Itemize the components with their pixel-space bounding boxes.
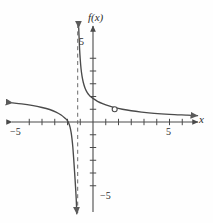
curve-right-branch xyxy=(79,28,198,116)
graph-figure: f(x) x 5 −5 5 −5 xyxy=(0,0,213,223)
x-tick-label-5: 5 xyxy=(166,126,171,137)
x-tick-label-negative-5: −5 xyxy=(10,126,21,137)
curve-left-branch xyxy=(13,103,77,214)
y-axis-label: f(x) xyxy=(88,11,103,23)
x-axis-label: x xyxy=(199,113,204,125)
axes-group xyxy=(12,26,198,212)
open-circle-point xyxy=(112,107,117,112)
y-tick-label-negative-5: −5 xyxy=(100,190,111,201)
y-tick-label-5: 5 xyxy=(79,36,84,47)
point-group xyxy=(112,107,117,112)
